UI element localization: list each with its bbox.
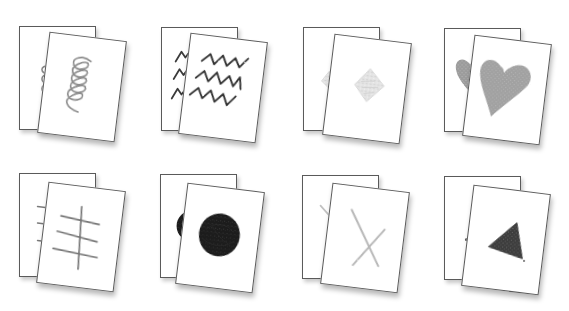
front-card [320,183,410,294]
front-card [36,182,126,293]
heart-icon [463,36,551,145]
filled-circle-icon [176,184,264,293]
diamond-icon [323,35,411,144]
front-card [178,33,268,144]
zigzag-icon [179,34,267,143]
front-card [175,183,265,294]
front-card [322,34,412,145]
ladder-icon [37,183,125,292]
front-card [461,185,551,296]
triangle-icon [462,186,550,295]
x-cross-icon [321,184,409,293]
card-pair-triangle [0,0,140,140]
front-card [462,35,552,146]
